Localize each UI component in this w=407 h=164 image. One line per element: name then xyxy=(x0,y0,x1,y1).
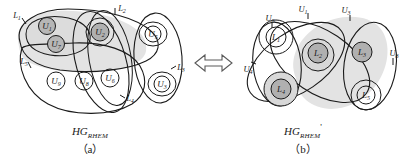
node-label-a-5: U6 xyxy=(105,73,115,84)
caption-panel-b: HGRHEM' （b） xyxy=(258,122,348,156)
edge-tick-a-L3 xyxy=(171,66,176,69)
panel-label-a: （a） xyxy=(50,140,130,156)
edge-label-a-L1: L1 xyxy=(12,10,21,21)
node-label-a-6: U9 xyxy=(51,76,61,87)
edge-label-b-U8: U8 xyxy=(389,48,398,59)
edge-label-b-U1: U1 xyxy=(298,4,307,15)
equivalence-arrow xyxy=(195,55,232,71)
graph-prime-b: ' xyxy=(320,122,322,132)
graph-subscript-b: RHEM xyxy=(300,132,320,140)
edge-label-b-U6: U6 xyxy=(265,13,274,24)
graph-name-a: HGRHEM xyxy=(50,122,130,140)
graph-name-b: HGRHEM' xyxy=(258,122,348,140)
edge-label-b-U3: U3 xyxy=(341,5,350,16)
node-label-a-7: U8 xyxy=(79,76,89,87)
edge-label-a-L2: L2 xyxy=(117,3,126,14)
node-label-a-3: U5 xyxy=(148,29,158,40)
node-label-b-0: L1 xyxy=(271,32,280,43)
panel-label-b: （b） xyxy=(258,140,348,156)
panel-b: L1 L2 L3 L4 L5 U1 U3 U4 U6 xyxy=(234,4,402,119)
edge-tick-a-L4 xyxy=(120,95,125,98)
edge-label-b-U4: U4 xyxy=(243,64,252,75)
graph-name-a-text: HG xyxy=(72,125,88,137)
edge-label-a-L3: L3 xyxy=(176,62,185,73)
graph-subscript-a: RHEM xyxy=(88,132,108,140)
node-label-a-4: U3 xyxy=(157,79,167,90)
edge-label-a-L4: L4 xyxy=(125,93,134,104)
panel-a: U1 U7 U2 U5 U3 U6 U9 U8 L1 L2 xyxy=(12,3,185,119)
caption-panel-a: HGRHEM （a） xyxy=(50,122,130,156)
graph-name-b-text: HG xyxy=(284,125,300,137)
